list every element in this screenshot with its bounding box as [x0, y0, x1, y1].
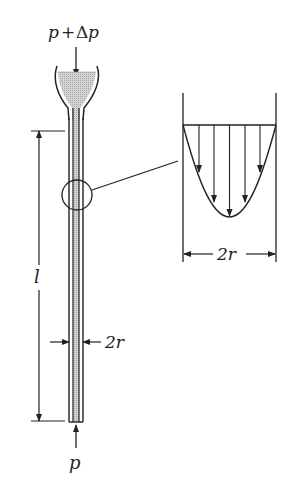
velocity-profile: 2r — [183, 93, 276, 264]
tube-diameter-dimension: 2r — [50, 332, 125, 352]
top-plus: + — [61, 22, 75, 42]
length-label: l — [34, 266, 40, 287]
capillary-tube — [69, 108, 83, 422]
magnifier-leader-line — [92, 161, 178, 190]
tube-diameter-label: 2r — [104, 332, 125, 352]
bottom-pressure-label: p — [69, 452, 81, 473]
profile-diameter-label: 2r — [216, 244, 237, 264]
top-p: p — [48, 22, 59, 42]
top-delta: Δ — [76, 22, 88, 42]
top-p2: p — [88, 22, 99, 42]
top-pressure-label: p + Δ p — [48, 22, 99, 42]
length-dimension: l — [31, 131, 65, 421]
poiseuille-diagram: p + Δ p l 2r p — [0, 0, 284, 484]
tube-fluid — [73, 112, 79, 422]
